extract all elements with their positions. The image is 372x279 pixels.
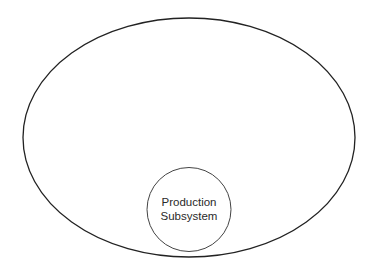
- subsystem-label-line-1: Production: [162, 196, 217, 208]
- system-diagram: Production Subsystem: [0, 0, 372, 279]
- subsystem-label-line-2: Subsystem: [161, 210, 218, 222]
